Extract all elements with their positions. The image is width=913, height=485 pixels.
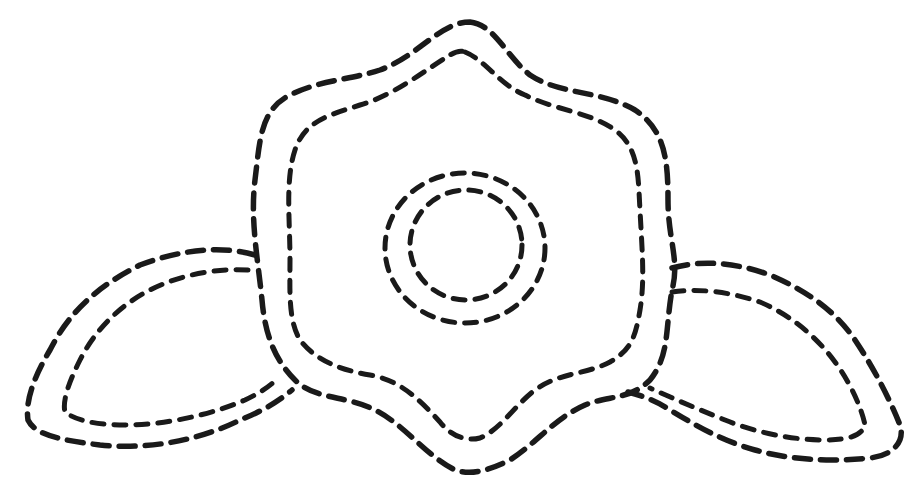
drawing-canvas: [0, 0, 913, 485]
flower-drawing: [0, 0, 913, 485]
flower-inner-outline: [289, 51, 643, 439]
center-inner-circle: [410, 190, 522, 300]
flower-outer-outline: [253, 22, 674, 472]
left-leaf-outer-outline: [27, 250, 292, 446]
